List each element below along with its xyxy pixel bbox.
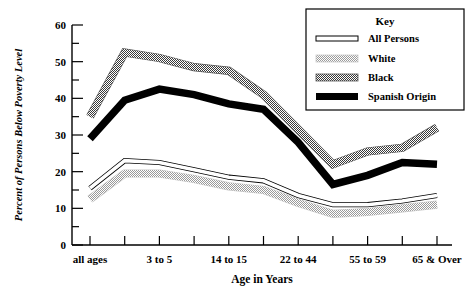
y-tick-label: 10 — [55, 202, 67, 214]
x-tick-label: all ages — [73, 253, 108, 265]
y-axis-title: Percent of Persons Below Poverty Level — [13, 49, 24, 221]
legend-item: Black — [316, 72, 394, 83]
legend-item-label: White — [368, 53, 396, 64]
legend-swatch-spanish-origin — [316, 93, 358, 100]
legend-item-label: Black — [368, 72, 394, 83]
legend-item: White — [316, 53, 396, 64]
x-tick-label: 55 to 59 — [349, 253, 386, 265]
y-tick-label: 30 — [55, 129, 67, 141]
y-tick-label: 40 — [55, 92, 67, 104]
y-axis-ticks — [72, 25, 83, 245]
legend: Key All PersonsWhiteBlackSpanish Origin — [306, 9, 464, 110]
y-axis-tick-labels: 0102030405060 — [55, 19, 67, 251]
poverty-chart: 0102030405060 all ages3 to 514 to 1522 t… — [0, 0, 475, 298]
x-axis-tick-labels: all ages3 to 514 to 1522 to 4455 to 5965… — [73, 253, 462, 265]
x-axis-title: Age in Years — [231, 273, 293, 286]
y-tick-label: 20 — [55, 166, 67, 178]
x-tick-label: 14 to 15 — [210, 253, 247, 265]
legend-swatch-white — [316, 55, 358, 62]
x-tick-label: 3 to 5 — [147, 253, 173, 265]
x-tick-label: 22 to 44 — [280, 253, 317, 265]
chart-canvas: 0102030405060 all ages3 to 514 to 1522 t… — [0, 0, 475, 298]
legend-swatch-all-persons — [316, 36, 358, 41]
legend-item-label: All Persons — [368, 33, 419, 44]
x-tick-label: 65 & Over — [412, 253, 462, 265]
legend-item-label: Spanish Origin — [368, 91, 436, 102]
x-axis-ticks — [90, 236, 437, 245]
y-tick-label: 50 — [55, 56, 67, 68]
y-tick-label: 60 — [55, 19, 67, 31]
legend-swatch-black — [316, 74, 358, 81]
y-tick-label: 0 — [61, 239, 67, 251]
legend-title: Key — [376, 15, 395, 27]
